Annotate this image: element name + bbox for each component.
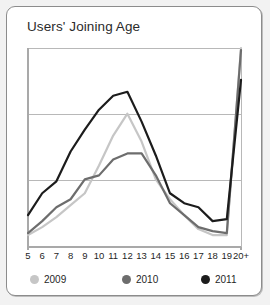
x-tick-label: 5 bbox=[25, 250, 30, 261]
x-tick-label: 7 bbox=[54, 250, 59, 261]
x-tick-label: 10 bbox=[94, 250, 105, 261]
x-tick-label: 16 bbox=[179, 250, 190, 261]
x-tick-label: 8 bbox=[68, 250, 73, 261]
x-tick-label: 9 bbox=[82, 250, 87, 261]
legend-label: 2010 bbox=[136, 274, 158, 285]
legend-label: 2009 bbox=[44, 274, 66, 285]
legend-swatch-icon bbox=[30, 275, 39, 284]
x-tick-label: 15 bbox=[165, 250, 176, 261]
x-tick-label: 14 bbox=[151, 250, 162, 261]
series-group bbox=[28, 48, 241, 235]
legend-label: 2011 bbox=[215, 274, 237, 285]
series-line-2011 bbox=[28, 80, 241, 221]
x-tick-label: 13 bbox=[136, 250, 147, 261]
x-tick-label: 20+ bbox=[233, 250, 249, 261]
legend-item-2009[interactable]: 2009 bbox=[30, 274, 66, 285]
series-line-2009 bbox=[28, 48, 241, 235]
x-tick-label: 18 bbox=[207, 250, 218, 261]
legend-item-2010[interactable]: 2010 bbox=[122, 274, 158, 285]
legend-item-2011[interactable]: 2011 bbox=[201, 274, 237, 285]
x-tick-label: 11 bbox=[108, 250, 118, 261]
series-line-2010 bbox=[28, 50, 241, 233]
x-axis-tick-labels: 567891011121314151617181920+ bbox=[28, 250, 241, 264]
legend-swatch-icon bbox=[122, 275, 131, 284]
x-tick-label: 12 bbox=[122, 250, 133, 261]
legend-swatch-icon bbox=[201, 275, 210, 284]
x-tick-label: 6 bbox=[40, 250, 45, 261]
gridlines-group bbox=[28, 114, 241, 180]
x-tick-label: 17 bbox=[193, 250, 204, 261]
axis-group bbox=[28, 48, 241, 250]
chart-legend: 200920102011 bbox=[24, 274, 246, 292]
x-tick-label: 19 bbox=[222, 250, 233, 261]
